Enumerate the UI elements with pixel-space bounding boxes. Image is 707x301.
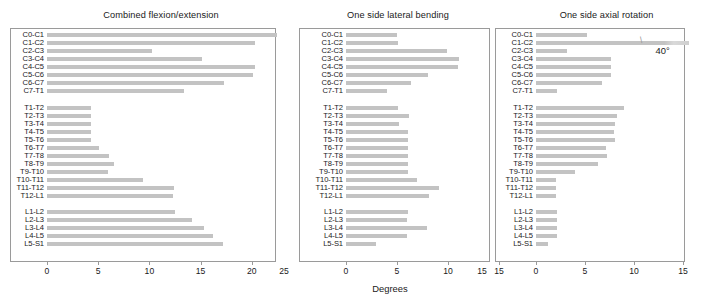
spine-range-of-motion-figure: Combined flexion/extension C0-C1C1-C2C2-…	[0, 0, 707, 301]
bar	[47, 146, 99, 150]
bar-row: C7-T1	[282, 86, 494, 96]
bar	[47, 130, 91, 134]
axis-bottom	[495, 261, 684, 262]
bar-row-label: T12-L1	[299, 191, 343, 201]
bar-row-label: C7-T1	[489, 86, 533, 96]
axis-tick-label: 5	[96, 266, 101, 276]
axis-top	[299, 28, 489, 29]
bar	[346, 65, 458, 69]
bar	[47, 234, 213, 238]
bar-row-label: L5-S1	[489, 239, 533, 249]
axis-tick	[98, 262, 99, 265]
axis-top	[495, 28, 684, 29]
bar	[536, 33, 587, 37]
axis-tick-label: 5	[583, 266, 588, 276]
bar	[536, 114, 617, 118]
bar	[536, 194, 556, 198]
bar	[47, 122, 91, 126]
axis-tick-label: 0	[45, 266, 50, 276]
axis-tick-label: 15	[678, 266, 688, 276]
bar	[536, 170, 575, 174]
axis-tick	[346, 262, 347, 265]
bar	[346, 226, 427, 230]
plot-area-2: C0-C1C1-C2C2-C3C3-C4C4-C5C5-C6C6-C7C7-T1…	[282, 28, 494, 262]
bar-row: T12-L1	[494, 191, 707, 201]
bar	[536, 234, 557, 238]
bar	[536, 49, 567, 53]
bar	[536, 226, 557, 230]
bar	[536, 73, 611, 77]
chart-panel-axial-rotation: One side axial rotation C0-C1C1-C2C2-C3C…	[494, 0, 707, 301]
axis-tick-label: 10	[629, 266, 639, 276]
bar	[536, 242, 548, 246]
x-axis-label: Degrees	[372, 283, 407, 294]
axis-tick	[252, 262, 253, 265]
bar	[47, 210, 175, 214]
bar-row: T12-L1	[282, 191, 494, 201]
bar-row-label: L5-S1	[0, 239, 44, 249]
bar	[536, 210, 557, 214]
chart-title-1: Combined flexion/extension	[0, 10, 282, 20]
bar	[346, 210, 408, 214]
broken-axis-annotation: 40°	[656, 45, 670, 56]
axis-edge-label: 25	[279, 266, 289, 276]
bar	[346, 194, 429, 198]
axis-edge-label: 15	[477, 266, 487, 276]
axis-tick-label: 15	[196, 266, 206, 276]
axis-tick-label: 10	[145, 266, 155, 276]
chart-title-2: One side lateral bending	[282, 10, 494, 20]
bar-row: C7-T1	[494, 86, 707, 96]
bar	[346, 242, 376, 246]
bar	[536, 122, 615, 126]
plot-area-3: C0-C1C1-C2C2-C3C3-C4C4-C5C5-C6C6-C7C7-T1…	[494, 28, 707, 262]
bar	[536, 89, 557, 93]
axis-tick	[683, 262, 684, 265]
axis-tick	[149, 262, 150, 265]
bar	[47, 57, 202, 61]
bar	[47, 33, 277, 37]
bar	[47, 178, 143, 182]
bar	[346, 106, 398, 110]
chart-panel-combined-flexion-extension: Combined flexion/extension C0-C1C1-C2C2-…	[0, 0, 282, 301]
axis-tick	[201, 262, 202, 265]
bar	[346, 41, 398, 45]
bar-row: T12-L1	[0, 191, 282, 201]
bar	[346, 178, 417, 182]
bar	[346, 114, 409, 118]
axis-tick	[536, 262, 537, 265]
bar	[536, 81, 602, 85]
bar-row: L5-S1	[494, 239, 707, 249]
axis-tick	[585, 262, 586, 265]
bar-row-label: T12-L1	[0, 191, 44, 201]
bar	[47, 194, 173, 198]
bar	[346, 130, 408, 134]
bar	[346, 218, 407, 222]
bar	[536, 218, 557, 222]
bar	[47, 226, 204, 230]
bar-row-label: C7-T1	[0, 86, 44, 96]
bar	[346, 170, 408, 174]
bar	[47, 65, 255, 69]
bar	[536, 146, 606, 150]
bar	[346, 122, 399, 126]
bar	[346, 49, 447, 53]
bar-row-label: T12-L1	[489, 191, 533, 201]
bar-row-label: C7-T1	[299, 86, 343, 96]
bar	[47, 170, 108, 174]
axis-tick-label: 20	[247, 266, 257, 276]
bar	[47, 138, 91, 142]
bar	[346, 162, 408, 166]
bar	[536, 178, 556, 182]
bar	[346, 234, 407, 238]
bar-row-label: L5-S1	[299, 239, 343, 249]
bar	[346, 154, 408, 158]
axis-tick	[397, 262, 398, 265]
axis-bottom	[10, 261, 275, 262]
bar	[47, 106, 91, 110]
axis-tick	[634, 262, 635, 265]
bar	[47, 41, 255, 45]
bar	[536, 130, 614, 134]
bar	[536, 106, 624, 110]
bar	[346, 138, 408, 142]
bar	[346, 81, 411, 85]
